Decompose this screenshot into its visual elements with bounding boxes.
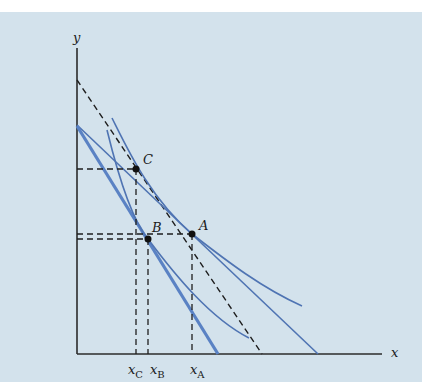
tick-xb: xB (150, 362, 165, 380)
tick-xa: xA (190, 362, 205, 380)
label-c: C (143, 152, 153, 167)
point-a (189, 231, 196, 238)
y-axis-label: y (72, 30, 81, 45)
indifference-curve-high (112, 118, 302, 306)
tick-xc: xC (128, 362, 143, 380)
label-b: B (151, 220, 162, 235)
point-c (133, 166, 140, 173)
original-budget-line-dashed (77, 80, 262, 354)
x-axis-label: x (391, 345, 399, 360)
point-b (145, 236, 152, 243)
indifference-diagram: C A B y x xC xB xA (0, 0, 422, 388)
label-a: A (198, 218, 208, 233)
